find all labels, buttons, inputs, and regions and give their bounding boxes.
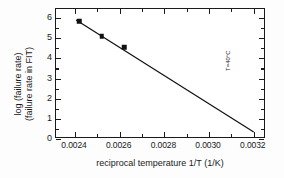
y-axis-minor-tick xyxy=(56,89,59,90)
x-axis-tick-top xyxy=(209,9,210,14)
x-axis-tick-top xyxy=(164,9,165,14)
y-axis-tick-right xyxy=(259,119,264,120)
y-axis-minor-tick-right xyxy=(261,89,264,90)
x-axis-tick-label: 0.0030 xyxy=(195,140,220,150)
x-axis-tick xyxy=(164,132,165,137)
figure-container: log (failure rate) (failure rate in FIT)… xyxy=(0,0,284,178)
x-axis-minor-tick-top xyxy=(187,9,188,12)
x-axis-tick-top xyxy=(75,9,76,14)
x-axis-tick xyxy=(75,132,76,137)
x-axis-tick xyxy=(120,132,121,137)
x-axis-tick xyxy=(254,132,255,137)
y-axis-tick xyxy=(56,79,61,80)
plot-frame xyxy=(55,8,265,138)
x-axis-label: reciprocal temperature 1/T (1/K) xyxy=(55,158,265,168)
y-axis-tick xyxy=(56,58,61,59)
x-axis-minor-tick xyxy=(97,134,98,137)
y-axis-tick xyxy=(56,38,61,39)
x-axis-tick xyxy=(209,132,210,137)
y-axis-tick-label: 6 xyxy=(42,12,52,22)
temperature-annotation: T=40°C xyxy=(225,51,231,72)
y-axis-tick-right xyxy=(259,58,264,59)
y-axis-tick-label: 2 xyxy=(42,93,52,103)
y-axis-tick-right xyxy=(259,18,264,19)
x-axis-tick-label: 0.0028 xyxy=(151,140,176,150)
plot-area xyxy=(56,9,264,137)
data-point-marker xyxy=(77,19,82,24)
y-axis-minor-tick-right xyxy=(261,109,264,110)
y-axis-minor-tick-right xyxy=(261,48,264,49)
y-axis-tick-label: 5 xyxy=(42,32,52,42)
y-axis-label-line2: (failure rate in FIT) xyxy=(24,16,35,152)
y-axis-minor-tick xyxy=(56,28,59,29)
plot-svg xyxy=(56,9,266,139)
y-axis-tick xyxy=(56,18,61,19)
y-axis-tick-right xyxy=(259,38,264,39)
y-axis-minor-tick-right xyxy=(261,129,264,130)
x-axis-minor-tick-top xyxy=(142,9,143,12)
x-axis-minor-tick xyxy=(187,134,188,137)
y-axis-label: log (failure rate) (failure rate in FIT) xyxy=(13,16,35,152)
y-axis-tick-right xyxy=(259,79,264,80)
x-axis-tick-label: 0.0026 xyxy=(106,140,131,150)
x-axis-minor-tick-top xyxy=(231,9,232,12)
x-axis-minor-tick-top xyxy=(97,9,98,12)
x-axis-tick-top xyxy=(120,9,121,14)
y-axis-tick-label: 0 xyxy=(42,133,52,143)
y-axis-tick-label: 4 xyxy=(42,52,52,62)
y-axis-minor-tick xyxy=(56,129,59,130)
y-axis-tick xyxy=(56,99,61,100)
y-axis-tick xyxy=(56,139,61,140)
y-axis-tick-right xyxy=(259,99,264,100)
y-axis-minor-tick-right xyxy=(261,28,264,29)
x-axis-tick-top xyxy=(254,9,255,14)
y-axis-minor-tick xyxy=(56,109,59,110)
x-axis-minor-tick xyxy=(231,134,232,137)
x-axis-tick-label: 0.0024 xyxy=(61,140,86,150)
y-axis-minor-tick xyxy=(56,48,59,49)
data-point-marker xyxy=(122,45,127,50)
y-axis-minor-tick-right xyxy=(261,68,264,69)
y-axis-minor-tick xyxy=(56,68,59,69)
y-axis-label-line1: log (failure rate) xyxy=(13,16,24,152)
x-axis-tick-label: 0.0032 xyxy=(240,140,265,150)
y-axis-tick-label: 3 xyxy=(42,73,52,83)
x-axis-minor-tick xyxy=(142,134,143,137)
y-axis-tick-label: 1 xyxy=(42,113,52,123)
data-point-marker xyxy=(100,34,105,39)
y-axis-tick xyxy=(56,119,61,120)
